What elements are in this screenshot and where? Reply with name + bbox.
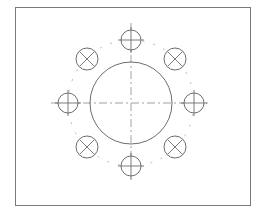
hole-left xyxy=(55,90,81,116)
hole-bottom xyxy=(118,153,144,179)
hole-bottom-left xyxy=(76,136,98,158)
hole-right xyxy=(181,90,207,116)
hole-top-right xyxy=(164,48,186,70)
hole-top xyxy=(118,27,144,53)
drawing-canvas xyxy=(0,0,264,213)
hole-bottom-right xyxy=(164,136,186,158)
hole-top-left xyxy=(76,48,98,70)
